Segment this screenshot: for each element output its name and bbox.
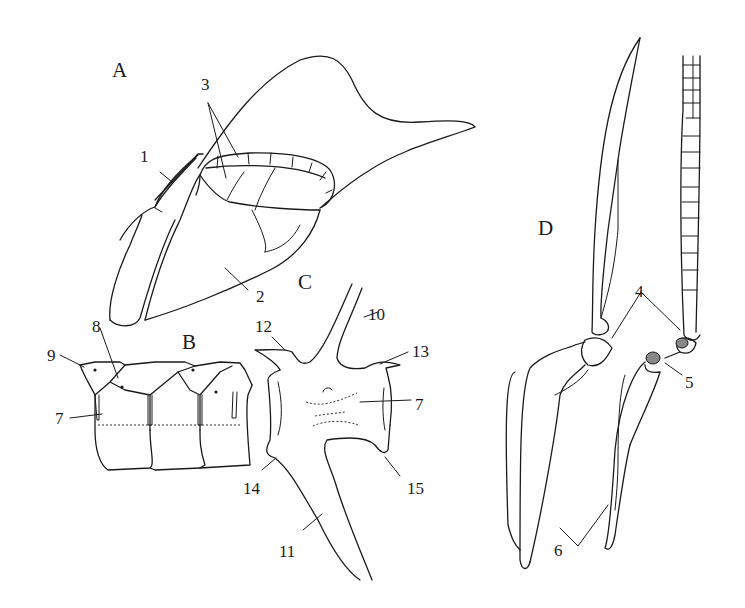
- line-drawing: [0, 0, 745, 608]
- callout-13: 13: [412, 343, 429, 360]
- callout-10: 10: [368, 306, 385, 323]
- callout-7-panel-c: 7: [415, 396, 424, 413]
- panel-a-drawing: [110, 56, 475, 326]
- callout-4: 4: [635, 283, 644, 300]
- callout-11: 11: [279, 543, 295, 560]
- panel-label-a: A: [112, 60, 127, 81]
- callout-8: 8: [92, 318, 101, 335]
- panel-label-b: B: [182, 332, 196, 353]
- callout-12: 12: [255, 318, 272, 335]
- panel-label-c: C: [298, 272, 312, 293]
- panel-b-drawing: [60, 328, 252, 470]
- panel-c-drawing: [255, 284, 411, 580]
- panel-d-drawing: [506, 38, 700, 569]
- scientific-figure: A B C D 1 2 3 4 5 6 7 7 8 9 10 11 12 13 …: [0, 0, 745, 608]
- callout-6: 6: [554, 542, 563, 559]
- callout-9: 9: [47, 347, 56, 364]
- callout-7-panel-b: 7: [55, 410, 64, 427]
- callout-14: 14: [243, 480, 260, 497]
- panel-label-d: D: [538, 218, 553, 239]
- callout-1: 1: [140, 148, 149, 165]
- callout-2: 2: [256, 288, 265, 305]
- callout-5: 5: [685, 374, 694, 391]
- callout-15: 15: [407, 480, 424, 497]
- callout-3: 3: [201, 76, 210, 93]
